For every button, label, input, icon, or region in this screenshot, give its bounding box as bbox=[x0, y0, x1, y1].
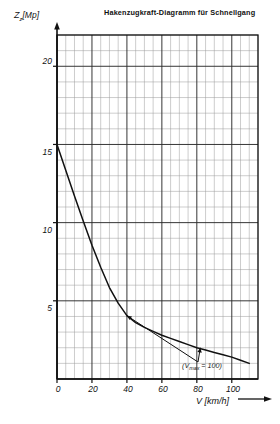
axis-arrows bbox=[54, 22, 272, 402]
chart-figure: Hakenzugkraft-Diagramm für Schnellgang Z… bbox=[0, 0, 280, 424]
minor-gridlines bbox=[57, 35, 258, 379]
axis-tick-marks bbox=[53, 66, 232, 383]
plot-area bbox=[0, 0, 280, 424]
annotation-arrows bbox=[127, 316, 202, 362]
